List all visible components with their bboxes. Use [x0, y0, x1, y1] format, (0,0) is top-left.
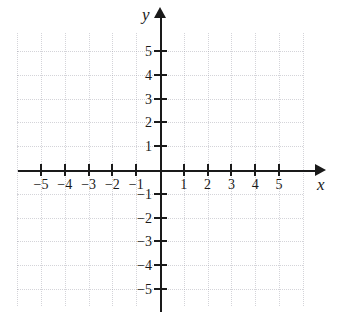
x-axis-tick	[207, 164, 209, 176]
y-axis-tick-label: 1	[128, 140, 152, 154]
y-axis-line	[160, 18, 162, 312]
x-axis-label: x	[317, 176, 325, 193]
y-axis-tick	[154, 217, 167, 219]
y-axis-tick	[154, 50, 167, 52]
x-axis-tick-label: −4	[53, 178, 77, 192]
x-axis-tick	[254, 164, 256, 176]
x-axis-tick	[64, 164, 66, 176]
x-axis-tick-label: −3	[77, 178, 101, 192]
y-axis-tick	[154, 288, 167, 290]
x-axis-tick	[40, 164, 42, 176]
x-axis-tick-label: 1	[172, 178, 196, 192]
y-axis-tick-label: −4	[128, 259, 152, 273]
x-axis-tick	[111, 164, 113, 176]
y-axis-tick	[154, 74, 167, 76]
y-axis-tick	[154, 193, 167, 195]
x-axis-tick	[278, 164, 280, 176]
y-axis-tick	[154, 240, 167, 242]
x-axis-tick-label: 2	[196, 178, 220, 192]
y-axis-tick	[154, 264, 167, 266]
x-axis-tick	[88, 164, 90, 176]
y-axis-tick	[154, 145, 167, 147]
x-axis-tick-label: −5	[29, 178, 53, 192]
x-axis-tick-label: 3	[219, 178, 243, 192]
x-axis-tick-label: −2	[100, 178, 124, 192]
y-axis-arrow-icon	[154, 7, 166, 18]
x-axis-tick-label: 4	[243, 178, 267, 192]
y-axis-tick-label: 4	[128, 69, 152, 83]
y-axis-tick	[154, 98, 167, 100]
y-axis-tick-label: −2	[128, 212, 152, 226]
x-axis-tick	[183, 164, 185, 176]
x-axis-tick	[230, 164, 232, 176]
y-axis-tick-label: 5	[128, 45, 152, 59]
y-axis-tick-label: −3	[128, 235, 152, 249]
y-axis-tick-label: −1	[128, 188, 152, 202]
y-axis-tick-label: −5	[128, 283, 152, 297]
y-axis-label: y	[142, 6, 150, 23]
y-axis-tick-label: 2	[128, 116, 152, 130]
coordinate-plane-figure: −5−4−3−2−112345−5−4−3−2−112345 y x	[0, 0, 337, 322]
x-axis-tick	[135, 164, 137, 176]
y-axis-tick	[154, 121, 167, 123]
y-axis-tick-label: 3	[128, 93, 152, 107]
x-axis-tick-label: 5	[267, 178, 291, 192]
